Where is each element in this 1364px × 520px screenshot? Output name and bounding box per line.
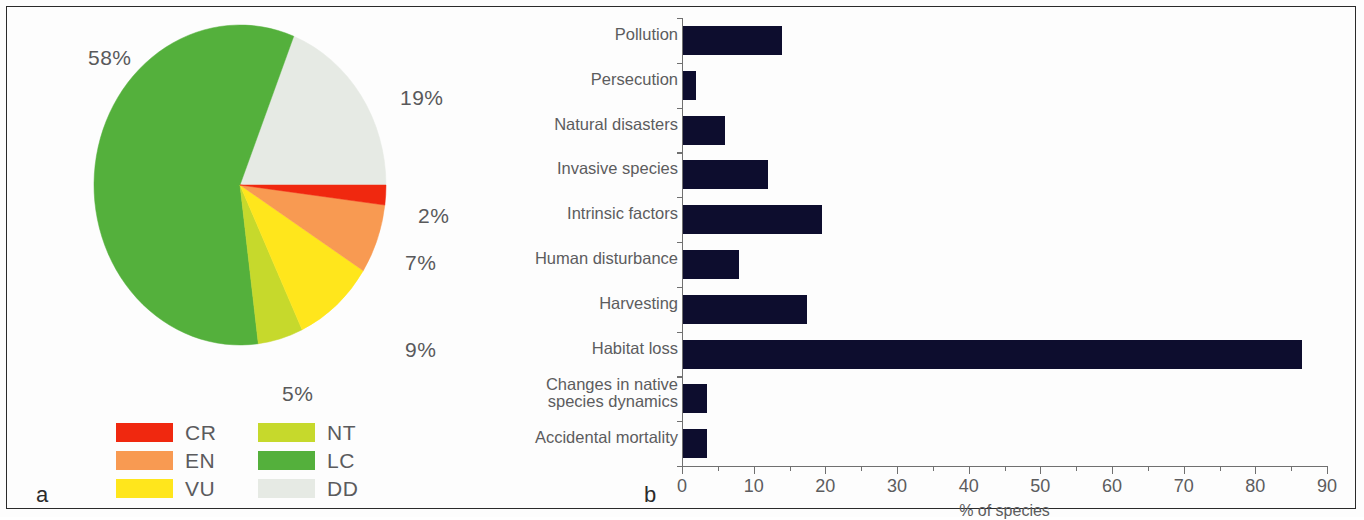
legend-item-nt: NT (258, 418, 386, 446)
pie-percent-label: 58% (88, 46, 132, 70)
bar (682, 384, 707, 413)
x-axis-minor-tick (1076, 466, 1077, 471)
pie-legend: CR NT EN LC VU DD (116, 418, 416, 502)
x-axis-minor-tick (861, 466, 862, 471)
x-axis-minor-tick (933, 466, 934, 471)
y-axis-tick (677, 242, 683, 243)
y-axis-tick (677, 152, 683, 153)
bar-row: Pollution (682, 18, 1327, 63)
bar-category-label: Human disturbance (448, 250, 678, 267)
bar (682, 250, 739, 279)
bar (682, 116, 725, 145)
y-axis-tick (677, 108, 683, 109)
x-axis-tick-label: 20 (815, 476, 835, 497)
y-axis-tick (677, 421, 683, 422)
bar (682, 340, 1302, 369)
bar-category-label: Persecution (448, 71, 678, 88)
bar (682, 295, 807, 324)
bar-category-label: Invasive species (448, 160, 678, 177)
bar-row: Intrinsic factors (682, 197, 1327, 242)
x-axis-major-tick (1184, 466, 1185, 474)
legend-label-dd: DD (327, 478, 358, 499)
bar-row: Changes in native species dynamics (682, 376, 1327, 421)
x-axis-tick-label: 60 (1102, 476, 1122, 497)
legend-swatch-lc (258, 451, 315, 470)
legend-swatch-en (116, 451, 173, 470)
legend-item-en: EN (116, 446, 244, 474)
pie-percent-label: 2% (418, 204, 449, 228)
bar-category-label: Natural disasters (448, 116, 678, 133)
x-axis-minor-tick (1148, 466, 1149, 471)
x-axis-minor-tick (790, 466, 791, 471)
bar (682, 205, 822, 234)
y-axis-tick (677, 287, 683, 288)
x-axis-major-tick (1040, 466, 1041, 474)
x-axis-major-tick (969, 466, 970, 474)
bar-series: PollutionPersecutionNatural disastersInv… (682, 18, 1327, 466)
legend-swatch-cr (116, 423, 173, 442)
x-axis-tick-label: 70 (1174, 476, 1194, 497)
pie-percent-label: 19% (400, 86, 444, 110)
bar-chart-plot-area: PollutionPersecutionNatural disastersInv… (682, 18, 1327, 466)
x-axis-major-tick (1327, 466, 1328, 474)
bar-row: Persecution (682, 63, 1327, 108)
bar-row: Invasive species (682, 152, 1327, 197)
pie-percent-label: 5% (282, 382, 313, 406)
bar-category-label: Intrinsic factors (448, 205, 678, 222)
y-axis-tick (677, 376, 683, 377)
x-axis-minor-tick (1291, 466, 1292, 471)
x-axis-major-tick (754, 466, 755, 474)
bar-category-label: Changes in native species dynamics (448, 376, 678, 410)
pie-chart-svg (90, 20, 390, 350)
legend-item-vu: VU (116, 474, 244, 502)
y-axis-tick (677, 18, 683, 19)
pie-percent-label: 9% (405, 338, 436, 362)
x-axis-major-tick (825, 466, 826, 474)
bar (682, 160, 768, 189)
bar (682, 71, 696, 100)
x-axis-major-tick (1255, 466, 1256, 474)
x-axis-tick-label: 10 (744, 476, 764, 497)
x-axis-tick-label: 50 (1030, 476, 1050, 497)
y-axis-tick (677, 332, 683, 333)
x-axis-tick-label: 40 (959, 476, 979, 497)
bar-row: Accidental mortality (682, 421, 1327, 466)
panel-b-label: b (644, 482, 656, 508)
pie-slices (94, 25, 386, 345)
legend-swatch-nt (258, 423, 315, 442)
legend-label-lc: LC (327, 450, 355, 471)
x-axis-title: % of species (682, 502, 1327, 520)
pie-percent-label: 7% (405, 251, 436, 275)
bar-row: Habitat loss (682, 332, 1327, 377)
x-axis-minor-tick (1220, 466, 1221, 471)
legend-label-en: EN (185, 450, 215, 471)
legend-item-cr: CR (116, 418, 244, 446)
bar-category-label: Habitat loss (448, 340, 678, 357)
x-axis-minor-tick (1005, 466, 1006, 471)
legend-label-nt: NT (327, 422, 356, 443)
bar-row: Natural disasters (682, 108, 1327, 153)
bar-row: Human disturbance (682, 242, 1327, 287)
legend-swatch-vu (116, 479, 173, 498)
legend-label-vu: VU (185, 478, 215, 499)
bar-category-label: Accidental mortality (448, 429, 678, 446)
bar-category-label: Pollution (448, 26, 678, 43)
legend-item-dd: DD (258, 474, 386, 502)
legend-swatch-dd (258, 479, 315, 498)
x-axis-tick-label: 80 (1245, 476, 1265, 497)
pie-chart (90, 20, 390, 350)
legend-item-lc: LC (258, 446, 386, 474)
x-axis-tick-label: 30 (887, 476, 907, 497)
x-axis-major-tick (1112, 466, 1113, 474)
x-axis-major-tick (682, 466, 683, 474)
panel-a-label: a (36, 482, 48, 508)
bar-category-label: Harvesting (448, 295, 678, 312)
y-axis-tick (677, 63, 683, 64)
y-axis-tick (677, 197, 683, 198)
bar-row: Harvesting (682, 287, 1327, 332)
bar (682, 26, 782, 55)
x-axis-tick-label: 90 (1317, 476, 1337, 497)
legend-label-cr: CR (185, 422, 216, 443)
bar (682, 429, 707, 458)
